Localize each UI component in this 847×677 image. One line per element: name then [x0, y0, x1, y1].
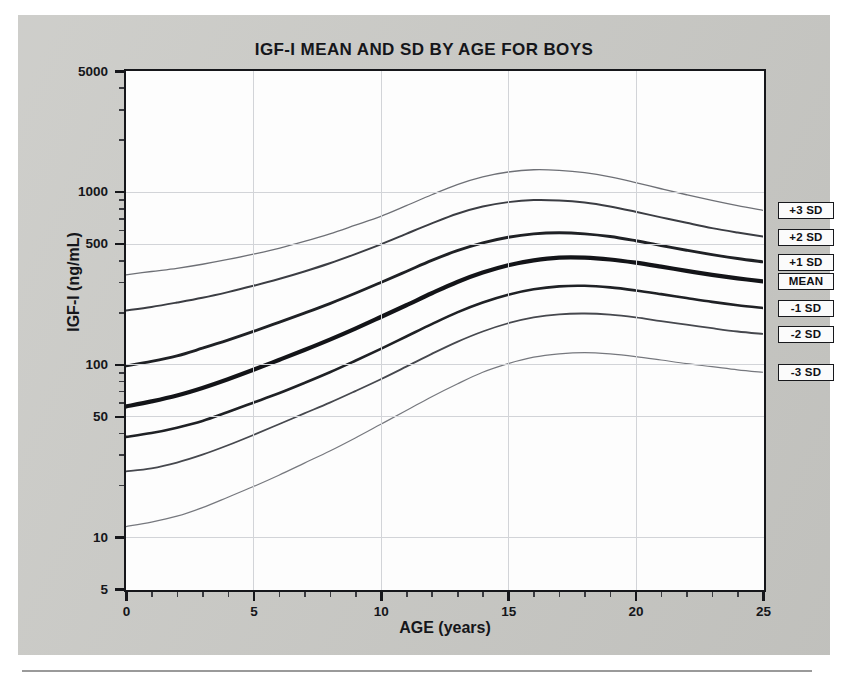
x-tick-minor: [584, 592, 586, 597]
y-tick-minor: [119, 454, 124, 456]
legend-item-2sd: +2 SD: [778, 229, 834, 246]
y-tick-label: 50: [56, 409, 108, 424]
curve-mean: [126, 257, 763, 406]
y-tick-label: 10: [56, 530, 108, 545]
y-tick-label: 5: [56, 582, 108, 597]
x-tick-major: [635, 592, 638, 601]
gridline-vertical: [253, 71, 254, 590]
y-tick-major: [115, 364, 124, 367]
x-tick-label: 0: [107, 604, 147, 619]
y-tick-minor: [119, 433, 124, 435]
page-title: IGF-I MEAN AND SD BY AGE FOR BOYS: [18, 40, 830, 60]
gridline-horizontal: [126, 537, 764, 538]
y-tick-major: [115, 191, 124, 194]
x-tick-minor: [355, 592, 357, 597]
legend-item-1sd: +1 SD: [778, 254, 834, 271]
y-tick-minor: [119, 391, 124, 393]
legend-item-minus3sd: -3 SD: [778, 364, 834, 381]
gridline-vertical: [381, 71, 382, 590]
x-axis-title: AGE (years): [124, 619, 766, 637]
y-axis-title: IGF-I (ng/mL): [65, 182, 83, 382]
x-tick-minor: [457, 592, 459, 597]
legend-item-3sd: +3 SD: [778, 202, 834, 219]
y-tick-minor: [119, 260, 124, 262]
x-tick-minor: [279, 592, 281, 597]
y-tick-major: [115, 70, 124, 73]
x-tick-minor: [533, 592, 535, 597]
figure-page: IGF-I MEAN AND SD BY AGE FOR BOYS 510501…: [0, 0, 847, 677]
x-tick-minor: [686, 592, 688, 597]
gridline-horizontal: [126, 364, 764, 365]
y-tick-major: [115, 416, 124, 419]
x-tick-label: 10: [361, 604, 401, 619]
figure-panel: IGF-I MEAN AND SD BY AGE FOR BOYS 510501…: [18, 15, 830, 655]
y-tick-minor: [119, 381, 124, 383]
curve-minus3sd: [126, 353, 763, 527]
y-tick-minor: [119, 402, 124, 404]
x-tick-minor: [202, 592, 204, 597]
y-tick-minor: [119, 372, 124, 374]
curve-minus2sd: [126, 313, 763, 471]
x-tick-label: 15: [489, 604, 529, 619]
gridline-vertical: [636, 71, 637, 590]
x-tick-major: [380, 592, 383, 601]
curve-3sd: [126, 170, 763, 275]
x-tick-minor: [304, 592, 306, 597]
x-tick-minor: [610, 592, 612, 597]
x-tick-label: 20: [616, 604, 656, 619]
x-tick-label: 5: [234, 604, 274, 619]
gridline-horizontal: [126, 244, 764, 245]
x-tick-minor: [661, 592, 663, 597]
x-tick-label: 25: [744, 604, 784, 619]
gridline-horizontal: [126, 416, 764, 417]
divider: [22, 670, 812, 672]
plot-inner: [126, 71, 764, 590]
x-tick-minor: [737, 592, 739, 597]
x-tick-minor: [406, 592, 408, 597]
igf1-curves-svg: [126, 71, 763, 589]
y-tick-minor: [119, 312, 124, 314]
x-tick-major: [762, 592, 765, 601]
x-tick-major: [253, 592, 256, 601]
y-tick-major: [115, 588, 124, 591]
y-tick-label: 5000: [56, 64, 108, 79]
y-tick-minor: [119, 139, 124, 141]
gridline-vertical: [508, 71, 509, 590]
x-tick-minor: [712, 592, 714, 597]
y-tick-minor: [119, 282, 124, 284]
legend-item-minus1sd: -1 SD: [778, 300, 834, 317]
legend-item-mean: MEAN: [778, 273, 834, 290]
y-tick-minor: [119, 199, 124, 201]
legend-item-minus2sd: -2 SD: [778, 326, 834, 343]
x-tick-minor: [228, 592, 230, 597]
x-tick-minor: [559, 592, 561, 597]
y-tick-minor: [119, 230, 124, 232]
x-tick-minor: [177, 592, 179, 597]
plot-area: [124, 69, 766, 592]
y-tick-minor: [119, 109, 124, 111]
x-tick-major: [507, 592, 510, 601]
x-tick-minor: [431, 592, 433, 597]
x-tick-minor: [330, 592, 332, 597]
x-tick-minor: [151, 592, 153, 597]
y-tick-major: [115, 243, 124, 246]
y-tick-minor: [119, 218, 124, 220]
y-tick-major: [115, 536, 124, 539]
gridline-horizontal: [126, 192, 764, 193]
y-tick-minor: [119, 485, 124, 487]
y-tick-minor: [119, 87, 124, 89]
curve-1sd: [126, 233, 763, 366]
y-tick-minor: [119, 208, 124, 210]
x-tick-major: [125, 592, 128, 601]
x-tick-minor: [482, 592, 484, 597]
